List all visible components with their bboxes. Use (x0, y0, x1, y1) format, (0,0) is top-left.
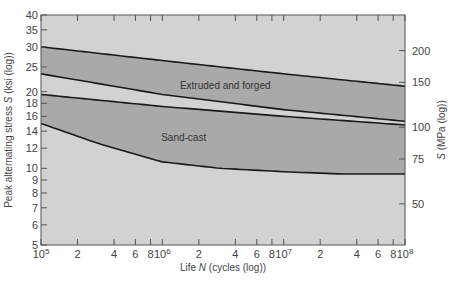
y-tick-label: 18 (26, 97, 38, 109)
x-tick-label: 6 (375, 248, 381, 260)
x-tick-label: 4 (232, 248, 238, 260)
x-tick-label: 6 (254, 248, 260, 260)
y-tick-label: 12 (26, 142, 38, 154)
sn-fatigue-chart: 105246810624681072468108 567891012141618… (0, 0, 450, 288)
x-tick-label: 8 (148, 248, 154, 260)
y-tick-label: 14 (26, 125, 38, 137)
y2-tick-label: 75 (412, 153, 424, 165)
x-tick-label: 2 (196, 248, 202, 260)
x-tick-label: 4 (111, 248, 117, 260)
y-axis-title: Peak alternating stress S (ksi (log)) (3, 52, 14, 208)
y-tick-label: 25 (26, 61, 38, 73)
x-tick-label: 4 (354, 248, 360, 260)
x-tick-label: 6 (132, 248, 138, 260)
y-tick-label: 10 (26, 162, 38, 174)
x-tick-label: 2 (74, 248, 80, 260)
x-tick-label: 2 (317, 248, 323, 260)
y-axis-right-title: S (MPa (log)) (436, 100, 447, 159)
x-tick-label: 8 (390, 248, 396, 260)
y-tick-label: 20 (26, 86, 38, 98)
y-tick-label: 35 (26, 24, 38, 36)
y-tick-label: 30 (26, 41, 38, 53)
x-tick-label: 8 (269, 248, 275, 260)
y2-tick-label: 150 (412, 76, 430, 88)
x-tick-label: 108 (397, 247, 414, 260)
y-tick-label: 16 (26, 110, 38, 122)
x-tick-label: 107 (275, 247, 292, 260)
y-tick-label: 8 (32, 187, 38, 199)
y2-tick-label: 100 (412, 121, 430, 133)
band-label: Extruded and forged (180, 80, 271, 91)
y2-tick-label: 50 (412, 198, 424, 210)
y-tick-label: 40 (26, 9, 38, 21)
y-tick-label: 9 (32, 174, 38, 186)
y-tick-label: 6 (32, 219, 38, 231)
y-tick-label: 5 (32, 239, 38, 251)
x-axis-title: Life N (cycles (log)) (180, 262, 266, 273)
x-tick-label: 106 (154, 247, 171, 260)
y2-tick-label: 200 (412, 45, 430, 57)
y-tick-label: 7 (32, 202, 38, 214)
band-label: Sand-cast (161, 132, 206, 143)
